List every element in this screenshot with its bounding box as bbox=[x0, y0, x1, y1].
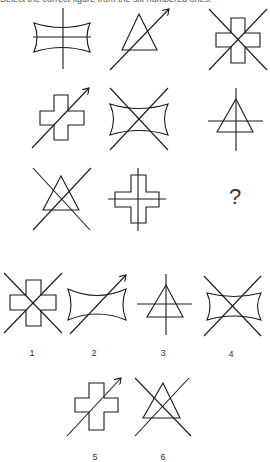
grid-cell-r1c1 bbox=[33, 8, 91, 69]
grid-cell-r3c1 bbox=[33, 168, 91, 230]
concave-rectangle-icon bbox=[68, 289, 126, 320]
arrow-line bbox=[70, 275, 126, 334]
option-4[interactable] bbox=[204, 276, 261, 336]
triangle-icon bbox=[147, 285, 183, 317]
option-2[interactable] bbox=[68, 275, 126, 334]
missing-figure-question-mark: ? bbox=[229, 184, 241, 210]
grid-cell-r1c2 bbox=[110, 9, 169, 70]
triangle-icon bbox=[43, 176, 79, 210]
grid-cell-r2c3 bbox=[208, 88, 263, 151]
option-3-label: 3 bbox=[153, 348, 173, 358]
grid-cell-r2c1 bbox=[32, 88, 89, 148]
option-1-label: 1 bbox=[22, 348, 42, 358]
option-5-label: 5 bbox=[85, 452, 105, 462]
puzzle-canvas bbox=[0, 0, 270, 462]
option-3[interactable] bbox=[137, 274, 192, 335]
option-6-label: 6 bbox=[153, 452, 173, 462]
option-5[interactable] bbox=[67, 378, 121, 436]
concave-rectangle-icon bbox=[207, 293, 261, 320]
grid-cell-r2c2 bbox=[110, 88, 168, 150]
option-2-label: 2 bbox=[84, 348, 104, 358]
option-6[interactable] bbox=[135, 378, 191, 436]
triangle-icon bbox=[217, 99, 253, 132]
cross-icon bbox=[75, 383, 118, 430]
grid-cell-r1c3 bbox=[209, 9, 267, 70]
option-1[interactable] bbox=[4, 273, 62, 333]
grid-cell-r3c2 bbox=[108, 168, 166, 231]
triangle-icon bbox=[122, 14, 157, 50]
triangle-icon bbox=[143, 383, 180, 418]
option-4-label: 4 bbox=[221, 349, 241, 359]
arrow-line bbox=[110, 9, 169, 70]
